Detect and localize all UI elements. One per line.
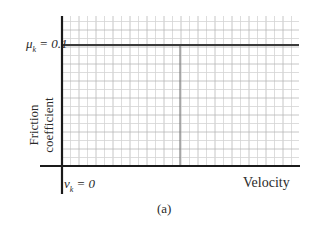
y-tick-label-mu: μk = 0.1	[26, 36, 68, 54]
y-axis-label-line2: coefficient	[41, 70, 56, 180]
x-tick-label-v: vk = 0	[64, 176, 95, 194]
y-axis-label-line1: Friction	[26, 70, 41, 180]
figure-caption: (a)	[157, 201, 171, 217]
x-axis-label: Velocity	[243, 175, 290, 191]
y-axis-label: Friction coefficient	[26, 70, 56, 180]
